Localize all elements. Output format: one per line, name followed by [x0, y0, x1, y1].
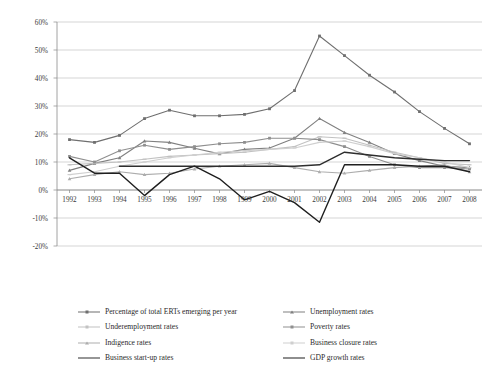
data-point-marker [343, 140, 347, 141]
data-point-marker [293, 89, 296, 92]
legend-item-label: Indigence rates [105, 339, 151, 347]
series-line [120, 152, 470, 166]
legend-marker-icon [86, 326, 89, 329]
legend-swatch-icon [78, 338, 100, 347]
data-point-marker [218, 114, 221, 117]
data-point-marker [193, 114, 196, 117]
data-point-marker [268, 149, 272, 150]
data-point-marker [393, 91, 396, 94]
data-point-marker [343, 54, 346, 57]
data-point-marker [468, 164, 472, 165]
data-point-marker [168, 109, 171, 112]
data-point-marker [68, 174, 72, 175]
data-point-marker [368, 74, 371, 77]
data-point-marker [143, 117, 146, 120]
legend-line-icon [283, 342, 305, 343]
data-point-marker [268, 137, 271, 140]
legend-item[interactable]: Poverty rates [283, 323, 478, 332]
data-point-marker [318, 142, 322, 143]
data-point-marker [218, 142, 221, 145]
y-tick-label: 50% [35, 47, 48, 55]
data-point-marker [243, 141, 246, 144]
legend-item[interactable]: Underemployment rates [78, 323, 283, 332]
legend-item[interactable]: Business start-up rates [78, 354, 283, 363]
legend-item-label: Poverty rates [310, 323, 350, 331]
legend-item-label: Business closure rates [310, 339, 377, 347]
legend-line-icon [78, 358, 100, 359]
legend-line-icon [78, 327, 100, 328]
data-point-marker [343, 145, 346, 148]
legend-marker-icon [291, 341, 294, 344]
data-point-marker [193, 145, 196, 148]
series-0 [68, 35, 471, 146]
data-point-marker [193, 154, 197, 155]
data-point-marker [218, 153, 222, 154]
chart-figure: -20%-10%0%10%20%30%40%50%60% 19921993199… [0, 0, 499, 367]
x-tick-label: 2007 [437, 196, 452, 204]
legend-marker-icon [291, 326, 294, 329]
x-tick-label: 1998 [212, 196, 227, 204]
x-tick-label: 1994 [112, 196, 127, 204]
data-point-marker [143, 161, 147, 162]
legend-item[interactable]: Percentage of total ERTs emerging per ye… [78, 307, 283, 316]
legend-item-label: GDP growth rates [310, 354, 365, 362]
data-point-marker [368, 145, 372, 146]
legend-item-label: Underemployment rates [105, 323, 178, 331]
legend-swatch-icon [78, 323, 100, 332]
legend-item-label: Business start-up rates [105, 354, 173, 362]
data-point-marker [243, 113, 246, 116]
data-point-marker [68, 138, 71, 141]
data-point-marker [393, 152, 397, 153]
series-line [70, 36, 470, 144]
data-point-marker [168, 157, 172, 158]
y-tick-label: 30% [35, 103, 48, 111]
data-point-marker [268, 107, 271, 110]
y-tick-label: 0% [38, 187, 48, 195]
legend-item[interactable]: Unemployment rates [283, 307, 478, 316]
data-point-marker [393, 153, 397, 154]
legend-line-icon [283, 358, 305, 359]
data-point-marker [343, 138, 347, 139]
data-point-marker [468, 167, 472, 168]
legend-swatch-icon [283, 323, 305, 332]
data-point-marker [443, 161, 447, 162]
data-point-marker [118, 134, 121, 137]
legend-line-icon [78, 311, 100, 312]
legend-line-icon [78, 342, 100, 343]
legend-item-label: Percentage of total ERTs emerging per ye… [105, 308, 237, 316]
y-tick-label: -10% [32, 215, 48, 223]
legend-marker-icon [86, 310, 89, 313]
y-tick-label: -20% [32, 243, 48, 251]
data-point-marker [443, 127, 446, 130]
data-point-marker [318, 117, 322, 120]
x-tick-label: 2005 [387, 196, 402, 204]
legend-item[interactable]: Business closure rates [283, 338, 478, 347]
x-tick-label: 2002 [312, 196, 327, 204]
x-tick-label: 2004 [362, 196, 377, 204]
x-tick-label: 2000 [262, 196, 277, 204]
data-point-marker [143, 144, 146, 147]
data-point-marker [318, 35, 321, 38]
legend-line-icon [283, 327, 305, 328]
data-point-marker [318, 136, 322, 137]
data-point-marker [168, 156, 172, 157]
data-point-marker [168, 148, 171, 151]
data-point-marker [93, 141, 96, 144]
data-point-marker [418, 157, 422, 158]
legend-item[interactable]: Indigence rates [78, 338, 283, 347]
y-tick-label: 10% [35, 159, 48, 167]
data-point-marker [293, 147, 297, 148]
legend-item-label: Unemployment rates [310, 308, 373, 316]
legend-item[interactable]: GDP growth rates [283, 354, 478, 363]
data-point-marker [293, 137, 296, 140]
data-point-marker [118, 149, 121, 152]
y-tick-label: 60% [35, 19, 48, 27]
data-point-marker [243, 152, 247, 153]
data-point-marker [318, 138, 321, 141]
data-point-marker [243, 150, 247, 151]
data-point-marker [143, 159, 147, 160]
series-2 [68, 136, 472, 165]
data-point-marker [368, 146, 372, 147]
x-tick-label: 1997 [187, 196, 202, 204]
data-series-group [68, 35, 472, 223]
